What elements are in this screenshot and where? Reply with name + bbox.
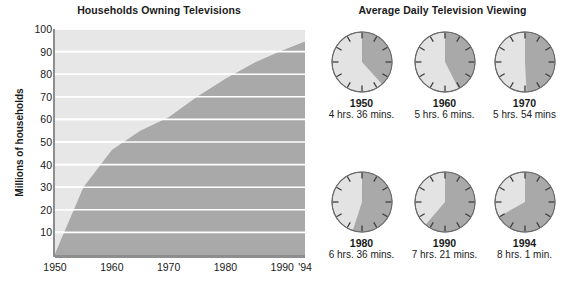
chart-title: Households Owning Televisions: [0, 4, 318, 16]
clock-year-label: 1994: [483, 237, 566, 249]
clock-face-1950: [328, 28, 396, 96]
x-tick-label: 1950: [43, 261, 66, 273]
y-tick-label: 60: [22, 113, 52, 125]
clock-face-1970: [491, 28, 559, 96]
chart-plot-area: [55, 29, 305, 255]
clock-year-label: 1960: [403, 97, 486, 109]
chart-x-tick-labels: 19501960197019801990'94: [0, 261, 318, 281]
y-tick-label: 100: [22, 23, 52, 35]
clock-duration-label: 5 hrs. 54 mins: [483, 109, 566, 121]
clocks-title: Average Daily Television Viewing: [318, 4, 567, 16]
chart-y-tick-labels: 102030405060708090100: [22, 29, 52, 255]
viewing-clocks-panel: Average Daily Television Viewing 19504 h…: [318, 0, 567, 286]
clock-cell: 19504 hrs. 36 mins.: [320, 28, 403, 121]
clock-face-1980: [328, 168, 396, 236]
clock-cell: 19907 hrs. 21 mins.: [403, 168, 486, 261]
clock-duration-label: 4 hrs. 36 mins.: [320, 109, 403, 121]
x-tick-label: '94: [298, 261, 312, 273]
y-tick-label: 80: [22, 68, 52, 80]
households-chart-panel: Households Owning Televisions Millions o…: [0, 0, 318, 286]
clock-duration-label: 8 hrs. 1 min.: [483, 249, 566, 261]
chart-x-axis-line: [55, 255, 305, 258]
clock-year-label: 1950: [320, 97, 403, 109]
clock-cell: 19705 hrs. 54 mins: [483, 28, 566, 121]
y-tick-label: 30: [22, 181, 52, 193]
y-tick-label: 70: [22, 91, 52, 103]
x-tick-label: 1960: [100, 261, 123, 273]
clock-cell: 19605 hrs. 6 mins.: [403, 28, 486, 121]
x-tick-label: 1990: [271, 261, 294, 273]
clock-cell: 19948 hrs. 1 min.: [483, 168, 566, 261]
x-tick-label: 1980: [214, 261, 237, 273]
y-tick-label: 90: [22, 46, 52, 58]
clock-duration-label: 7 hrs. 21 mins.: [403, 249, 486, 261]
clock-face-1994: [491, 168, 559, 236]
clock-year-label: 1970: [483, 97, 566, 109]
clock-duration-label: 6 hrs. 36 mins.: [320, 249, 403, 261]
clock-year-label: 1980: [320, 237, 403, 249]
y-tick-label: 10: [22, 226, 52, 238]
y-tick-label: 40: [22, 159, 52, 171]
x-tick-label: 1970: [157, 261, 180, 273]
clock-year-label: 1990: [403, 237, 486, 249]
clock-duration-label: 5 hrs. 6 mins.: [403, 109, 486, 121]
y-tick-label: 20: [22, 204, 52, 216]
y-tick-label: 50: [22, 136, 52, 148]
clock-face-1990: [411, 168, 479, 236]
clock-cell: 19806 hrs. 36 mins.: [320, 168, 403, 261]
chart-area-plot: [55, 29, 305, 255]
clock-face-1960: [411, 28, 479, 96]
